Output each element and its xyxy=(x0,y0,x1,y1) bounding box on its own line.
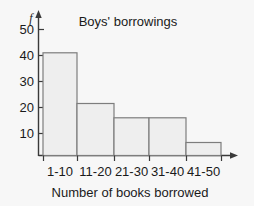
y-axis-arrowhead xyxy=(35,10,41,18)
bar-11-20 xyxy=(77,104,114,156)
x-axis-arrowhead xyxy=(230,152,238,158)
histogram-plot: Boys' borrowings f 50 40 30 20 10 xyxy=(0,0,254,206)
y-tick-label-30: 30 xyxy=(20,74,34,89)
chart-screenshot: Boys' borrowings f 50 40 30 20 10 xyxy=(0,0,254,206)
x-tick-marks xyxy=(44,156,222,162)
bar-group xyxy=(43,53,221,156)
bar-21-30 xyxy=(114,118,149,156)
y-tick-label-50: 50 xyxy=(20,22,34,37)
x-label-1-10: 1-10 xyxy=(47,164,73,179)
x-axis-title: Number of books borrowed xyxy=(52,185,209,200)
y-tick-label-20: 20 xyxy=(20,100,34,115)
x-tick-labels: 1-10 11-20 21-30 31-40 41-50 xyxy=(47,164,220,179)
bar-31-40 xyxy=(149,118,186,156)
bar-41-50 xyxy=(186,143,221,156)
x-label-11-20: 11-20 xyxy=(79,164,111,179)
x-label-41-50: 41-50 xyxy=(187,164,220,179)
y-tick-label-10: 10 xyxy=(20,126,34,141)
y-tick-label-40: 40 xyxy=(20,48,34,63)
x-label-31-40: 31-40 xyxy=(151,164,184,179)
y-tick-labels: 50 40 30 20 10 xyxy=(20,22,34,141)
x-label-21-30: 21-30 xyxy=(115,164,148,179)
bar-1-10 xyxy=(43,53,77,156)
chart-title: Boys' borrowings xyxy=(79,14,178,29)
